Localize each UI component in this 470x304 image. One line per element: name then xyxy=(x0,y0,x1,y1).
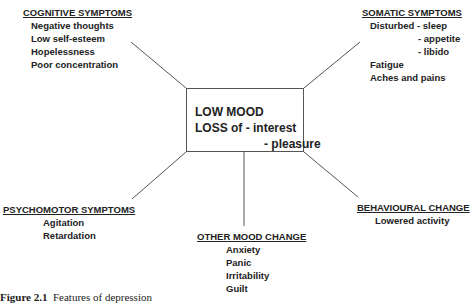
center-line-2: LOSS of - interest xyxy=(195,120,321,136)
other-mood-item: Irritability xyxy=(226,269,306,282)
somatic-item: - appetite xyxy=(370,32,462,45)
center-text: LOW MOOD LOSS of - interest - pleasure xyxy=(195,104,321,152)
connector-cognitive xyxy=(131,42,186,88)
center-box-low-mood: LOW MOOD LOSS of - interest - pleasure xyxy=(186,88,304,152)
behavioural-item: Lowered activity xyxy=(375,214,470,227)
somatic-item: Fatigue xyxy=(370,58,462,71)
cognitive-heading: COGNITIVE SYMPTOMS xyxy=(23,6,132,19)
connector-psychomotor xyxy=(132,152,186,199)
behavioural-heading: BEHAVIOURAL CHANGE xyxy=(357,201,470,214)
psychomotor-item: Retardation xyxy=(43,229,135,242)
caption-text: Features of depression xyxy=(53,291,152,303)
somatic-symptoms-block: SOMATIC SYMPTOMS Disturbed - sleep - app… xyxy=(362,6,462,84)
figure-caption: Figure 2.1 Features of depression xyxy=(0,291,152,303)
psychomotor-symptoms-block: PSYCHOMOTOR SYMPTOMS Agitation Retardati… xyxy=(3,203,135,242)
somatic-item: Disturbed - sleep xyxy=(370,19,462,32)
psychomotor-item: Agitation xyxy=(43,216,135,229)
other-mood-item: Panic xyxy=(226,256,306,269)
cognitive-item: Hopelessness xyxy=(31,45,132,58)
other-mood-item: Guilt xyxy=(226,282,306,295)
center-line-3: - pleasure xyxy=(195,136,321,152)
other-mood-change-block: OTHER MOOD CHANGE Anxiety Panic Irritabi… xyxy=(197,230,306,295)
cognitive-item: Low self-esteem xyxy=(31,32,132,45)
behavioural-change-block: BEHAVIOURAL CHANGE Lowered activity xyxy=(357,201,470,227)
cognitive-symptoms-block: COGNITIVE SYMPTOMS Negative thoughts Low… xyxy=(23,6,132,71)
caption-label: Figure 2.1 xyxy=(0,291,47,303)
somatic-item: Aches and pains xyxy=(370,71,462,84)
center-line-1: LOW MOOD xyxy=(195,104,321,120)
other-mood-item: Anxiety xyxy=(226,243,306,256)
connector-behavioural xyxy=(304,152,358,197)
other-mood-heading: OTHER MOOD CHANGE xyxy=(197,230,306,243)
psychomotor-heading: PSYCHOMOTOR SYMPTOMS xyxy=(3,203,135,216)
cognitive-item: Poor concentration xyxy=(31,58,132,71)
connector-somatic xyxy=(304,42,360,88)
somatic-item: - libido xyxy=(370,45,462,58)
cognitive-item: Negative thoughts xyxy=(31,19,132,32)
somatic-heading: SOMATIC SYMPTOMS xyxy=(362,6,462,19)
